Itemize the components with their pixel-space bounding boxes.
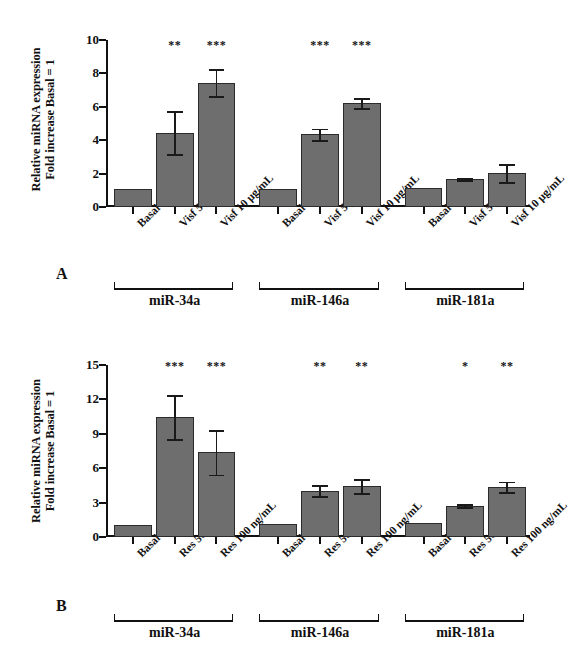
group-label-panel-a-0: miR-34a	[149, 293, 200, 309]
y-tick-mark-panel-b-5	[99, 364, 106, 366]
x-tick-label-panel-b-7: Res 50 ng/mL	[467, 551, 475, 559]
error-cap-panel-a-5-lower	[354, 108, 370, 110]
x-tick-mark-panel-a-7	[464, 207, 466, 214]
x-tick-label-panel-b-3: Basal	[280, 551, 288, 559]
y-tick-label-panel-b-5: 15	[86, 357, 99, 373]
x-tick-mark-panel-a-5	[361, 207, 363, 214]
error-bar-panel-b-5	[361, 479, 363, 493]
error-cap-panel-a-8-upper	[499, 164, 515, 166]
y-axis-title-a: Relative miRNA expression Fold increase …	[30, 27, 57, 212]
error-bar-panel-b-1	[174, 395, 176, 439]
x-tick-mark-panel-b-7	[464, 537, 466, 544]
x-tick-label-panel-b-8: Res 100 ng/mL	[509, 551, 517, 559]
error-cap-panel-b-2-upper	[209, 430, 225, 432]
error-cap-panel-b-8-lower	[499, 492, 515, 494]
x-tick-label-panel-a-6: Basal	[425, 221, 433, 229]
group-bracket-line-panel-b-1	[260, 620, 377, 622]
group-label-panel-b-1: miR-146a	[291, 625, 349, 641]
error-cap-panel-a-4-lower	[312, 140, 328, 142]
error-cap-panel-b-4-lower	[312, 496, 328, 498]
y-tick-mark-panel-b-1	[99, 502, 106, 504]
group-bracket-panel-a-0	[114, 282, 233, 290]
x-tick-label-panel-a-1: Visf 5 μg/mL	[176, 221, 184, 229]
y-tick-mark-panel-b-4	[99, 398, 106, 400]
significance-marker-panel-a-2: ***	[207, 38, 227, 53]
y-axis-panel-b	[106, 365, 108, 537]
error-cap-panel-b-8-upper	[499, 482, 515, 484]
x-tick-mark-panel-b-4	[319, 537, 321, 544]
x-tick-mark-panel-a-3	[277, 207, 279, 214]
significance-marker-panel-b-1: ***	[165, 359, 185, 374]
error-cap-panel-a-1-upper	[167, 111, 183, 113]
significance-marker-panel-a-5: ***	[352, 38, 372, 53]
error-cap-panel-a-1-lower	[167, 154, 183, 156]
y-axis-title-line1-a: Relative miRNA expression	[30, 27, 44, 212]
bar-panel-a-miR-146a-2	[343, 103, 381, 207]
error-cap-panel-b-4-upper	[312, 485, 328, 487]
x-tick-mark-panel-a-1	[174, 207, 176, 214]
bar-panel-b-miR-34a-0	[114, 525, 152, 537]
significance-marker-panel-a-4: ***	[310, 38, 330, 53]
group-bracket-line-panel-a-0	[115, 288, 232, 290]
y-tick-label-panel-a-5: 10	[86, 32, 99, 48]
x-tick-label-panel-a-5: Visf 10 μg/mL	[364, 221, 372, 229]
plot-area-a: 0246810Basal**Visf 5 μg/mL***Visf 10 μg/…	[106, 40, 530, 207]
x-tick-mark-panel-a-2	[215, 207, 217, 214]
plot-area-b: 03691215Basal***Res 50 ng/mL***Res 100 n…	[106, 365, 530, 537]
bar-panel-a-miR-34a-0	[114, 189, 152, 207]
y-tick-mark-panel-b-0	[99, 536, 106, 538]
bar-panel-b-miR-181a-0	[405, 523, 443, 537]
bar-panel-a-miR-181a-0	[405, 188, 443, 207]
error-cap-panel-b-2-lower	[209, 475, 225, 477]
bar-panel-a-miR-146a-0	[259, 189, 297, 207]
error-cap-panel-b-5-upper	[354, 479, 370, 481]
bar-panel-a-miR-34a-2	[198, 83, 236, 207]
group-label-panel-a-1: miR-146a	[291, 293, 349, 309]
y-tick-mark-panel-b-3	[99, 433, 106, 435]
x-tick-label-panel-b-6: Basal	[425, 551, 433, 559]
y-tick-mark-panel-b-2	[99, 467, 106, 469]
x-tick-mark-panel-b-1	[174, 537, 176, 544]
panel-letter-b: B	[56, 597, 67, 615]
y-axis-title-line1-b: Relative miRNA expression	[30, 356, 44, 546]
x-tick-label-panel-b-0: Basal	[135, 551, 143, 559]
x-tick-label-panel-a-4: Visf 5 μg/mL	[322, 221, 330, 229]
y-tick-mark-panel-a-2	[99, 139, 106, 141]
y-tick-mark-panel-a-1	[99, 173, 106, 175]
group-bracket-line-panel-b-0	[115, 620, 232, 622]
y-axis-panel-a	[106, 40, 108, 207]
error-bar-panel-a-2	[216, 69, 218, 96]
bar-panel-b-miR-181a-1	[446, 506, 484, 537]
group-bracket-panel-a-1	[259, 282, 378, 290]
group-label-panel-a-2: miR-181a	[436, 293, 494, 309]
bar-panel-b-miR-146a-0	[259, 524, 297, 537]
bar-panel-a-miR-146a-1	[301, 134, 339, 207]
x-tick-label-panel-a-2: Visf 10 μg/mL	[218, 221, 226, 229]
x-tick-label-panel-a-7: Visf 5 μg/mL	[467, 221, 475, 229]
error-cap-panel-a-2-upper	[209, 69, 225, 71]
x-tick-mark-panel-a-4	[319, 207, 321, 214]
x-tick-mark-panel-b-8	[506, 537, 508, 544]
panel-a: A Relative miRNA expression Fold increas…	[0, 0, 569, 330]
y-axis-title-b: Relative miRNA expression Fold increase …	[30, 356, 57, 546]
error-cap-panel-a-5-upper	[354, 98, 370, 100]
x-tick-mark-panel-b-6	[423, 537, 425, 544]
x-tick-label-panel-b-2: Res 100 ng/mL	[218, 551, 226, 559]
bar-panel-a-miR-181a-1	[446, 179, 484, 207]
group-bracket-panel-b-2	[405, 614, 524, 622]
error-cap-panel-b-1-upper	[167, 395, 183, 397]
group-bracket-line-panel-a-2	[406, 288, 523, 290]
x-tick-label-panel-b-4: Res 50 ng/mL	[322, 551, 330, 559]
panel-b: B Relative miRNA expression Fold increas…	[0, 330, 569, 660]
bar-panel-b-miR-146a-1	[301, 491, 339, 537]
bar-panel-b-miR-181a-2	[488, 487, 526, 537]
error-cap-panel-b-1-lower	[167, 439, 183, 441]
group-bracket-panel-b-0	[114, 614, 233, 622]
y-axis-title-line2-b: Fold increase Basal = 1	[44, 356, 58, 546]
significance-marker-panel-b-4: **	[314, 359, 327, 374]
error-bar-panel-b-2	[216, 430, 218, 475]
error-cap-panel-a-8-lower	[499, 182, 515, 184]
group-bracket-panel-b-1	[259, 614, 378, 622]
significance-marker-panel-b-2: ***	[207, 359, 227, 374]
significance-marker-panel-b-7: *	[462, 359, 469, 374]
